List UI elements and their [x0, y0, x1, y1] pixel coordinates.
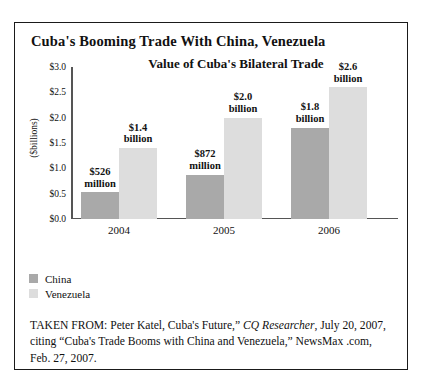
- x-axis-tick-label: 2005: [213, 224, 235, 236]
- y-axis-label: ($billions): [29, 93, 39, 183]
- caption-publication: CQ Researcher: [243, 319, 314, 332]
- plot-area: $0.0$0.5$1.0$1.5$2.0$2.5$3.0 $526million…: [71, 67, 396, 219]
- y-axis-tick-label: $0.0: [49, 214, 66, 224]
- figure-frame: Cuba's Booming Trade With China, Venezue…: [14, 22, 408, 370]
- y-axis-tick-label: $3.0: [49, 62, 66, 72]
- bar-venezuela-2005: $2.0billion: [224, 118, 262, 219]
- source-caption: TAKEN FROM: Peter Katel, Cuba's Future,”…: [30, 318, 392, 367]
- y-axis-tick-label: $0.5: [49, 189, 66, 199]
- y-axis-tick-label: $2.0: [49, 113, 66, 123]
- bar-value-label: $526million: [84, 166, 116, 190]
- caption-text-1: TAKEN FROM: Peter Katel, Cuba's Future,”: [30, 319, 243, 332]
- bar-chart: Value of Cuba's Bilateral Trade ($billio…: [15, 55, 409, 265]
- bar-value-label: $1.8billion: [296, 101, 325, 125]
- y-axis-line: [71, 67, 73, 219]
- legend-item-china: China: [29, 271, 229, 286]
- figure-title: Cuba's Booming Trade With China, Venezue…: [31, 33, 326, 50]
- bar-china-2005: $872million: [186, 175, 224, 219]
- x-axis-tick-label: 2004: [108, 224, 130, 236]
- bar-china-2004: $526million: [81, 192, 119, 219]
- bar-value-label: $2.6billion: [334, 61, 363, 85]
- legend-swatch-icon: [29, 289, 38, 298]
- legend-swatch-icon: [29, 274, 38, 283]
- bar-value-label: $2.0billion: [229, 91, 258, 115]
- chart-legend: ChinaVenezuela: [29, 271, 229, 301]
- x-axis-tick-label: 2006: [318, 224, 340, 236]
- bar-value-label: $872million: [189, 148, 221, 172]
- legend-item-venezuela: Venezuela: [29, 286, 229, 301]
- legend-label: China: [45, 273, 71, 285]
- bar-group-2005: $872million$2.0billion2005: [186, 67, 262, 219]
- y-axis-tick-label: $2.5: [49, 87, 66, 97]
- bar-group-2006: $1.8billion$2.6billion2006: [291, 67, 367, 219]
- legend-label: Venezuela: [45, 288, 90, 300]
- bar-venezuela-2004: $1.4billion: [119, 148, 157, 219]
- bar-china-2006: $1.8billion: [291, 128, 329, 219]
- bar-value-label: $1.4billion: [124, 122, 153, 146]
- bar-group-2004: $526million$1.4billion2004: [81, 67, 157, 219]
- y-axis-tick-label: $1.0: [49, 163, 66, 173]
- y-axis-tick-label: $1.5: [49, 138, 66, 148]
- bar-venezuela-2006: $2.6billion: [329, 87, 367, 219]
